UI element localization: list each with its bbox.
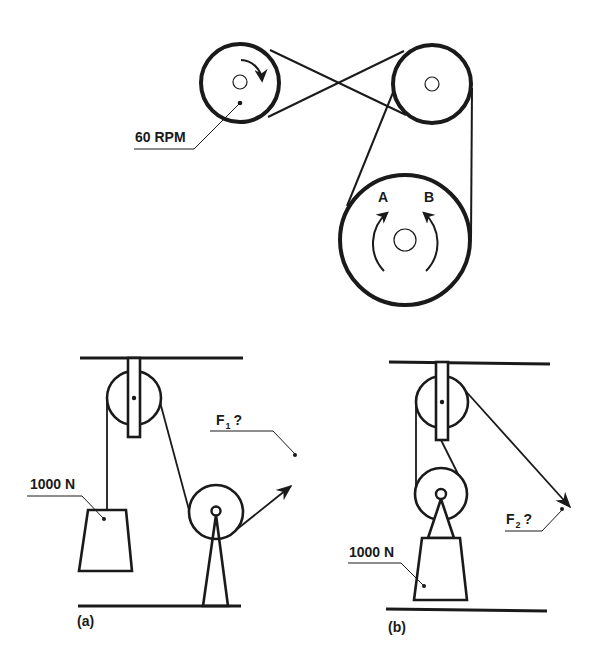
rpm-label: 60 RPM: [135, 130, 186, 144]
force-leader-a: [210, 431, 295, 454]
belt-drive: [134, 44, 472, 305]
force-suffix-a: ?: [234, 412, 243, 428]
caption-b: (b): [388, 620, 406, 634]
ground-b: [386, 609, 547, 611]
load-leader-b: [348, 563, 424, 586]
idler-pulley: [393, 45, 471, 123]
direction-label-b: B: [424, 190, 434, 204]
load-label-b: 1000 N: [349, 545, 394, 559]
large-pulley: [340, 175, 470, 305]
diagram-drawing: [0, 0, 606, 664]
force-symbol-b: F: [506, 511, 515, 527]
diagram-canvas: 60 RPM A B 1000 N F1? (a) 1000 N F2? (b): [0, 0, 606, 664]
force-suffix-b: ?: [524, 511, 533, 527]
force-symbol-a: F: [216, 412, 225, 428]
force-label-a: F1?: [216, 413, 242, 427]
load-weight-b: [414, 538, 467, 600]
force-label-b: F2?: [506, 512, 532, 526]
direction-label-a: A: [378, 190, 388, 204]
ceiling-b: [389, 362, 550, 364]
force-subscript-b: 2: [516, 520, 521, 530]
driver-pulley: [201, 44, 279, 122]
pulley-system-b: [348, 362, 570, 611]
force-subscript-a: 1: [226, 421, 231, 431]
caption-a: (a): [77, 614, 94, 628]
load-label-a: 1000 N: [30, 477, 75, 491]
